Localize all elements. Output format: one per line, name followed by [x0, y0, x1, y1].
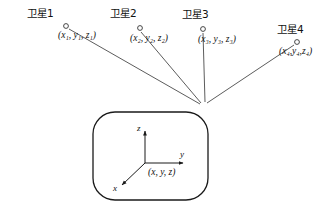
satellite-2-coordinates: (x₂, y₂, z₂): [130, 34, 168, 44]
satellite-1-marker-icon: [64, 24, 69, 29]
axis-x-line: [122, 163, 145, 185]
axis-x-label: x: [113, 184, 117, 193]
satellite-4-name: 卫星4: [277, 24, 304, 35]
satellite-positioning-diagram: 卫星1 (x₁, y₁, z₁) 卫星2 (x₂, y₂, z₂) 卫星3 (x…: [0, 0, 333, 210]
satellite-4-coordinates: (x₄,y₄,z₄): [279, 47, 312, 57]
signal-lines: [69, 29, 294, 104]
satellite-1-name: 卫星1: [27, 8, 54, 19]
satellite-1-coordinates: (x₁, y₁, z₁): [58, 31, 96, 41]
axis-z-label: z: [137, 124, 141, 133]
receiver-body: [93, 112, 208, 200]
receiver-origin-coordinates: (x, y, z): [148, 168, 175, 178]
satellite-3-marker-icon: [201, 27, 206, 32]
satellite-markers: [64, 24, 300, 45]
satellite-4-marker-icon: [295, 40, 300, 45]
satellite-2-marker-icon: [138, 26, 143, 31]
satellite-2-name: 卫星2: [110, 8, 137, 19]
satellite-3-coordinates: (x₃, y₃, z₃): [198, 35, 236, 45]
axis-y-label: y: [180, 150, 184, 159]
satellite-3-name: 卫星3: [182, 9, 209, 20]
